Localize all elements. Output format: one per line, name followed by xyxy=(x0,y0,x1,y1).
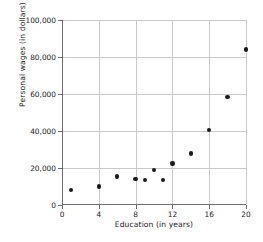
x-tick-label: 8 xyxy=(133,210,138,219)
data-point xyxy=(161,178,165,182)
gridline-vertical xyxy=(209,20,210,205)
y-tick-label: 60,000 xyxy=(30,90,56,99)
x-tick-label: 0 xyxy=(60,210,65,219)
x-tick-label: 16 xyxy=(204,210,213,219)
data-point xyxy=(189,151,193,155)
gridline-horizontal xyxy=(62,20,246,21)
gridline-vertical xyxy=(172,20,173,205)
data-point xyxy=(170,161,174,165)
data-point xyxy=(97,184,101,188)
x-axis-line xyxy=(62,204,246,205)
data-point xyxy=(244,47,248,51)
gridline-horizontal xyxy=(62,57,246,58)
y-tick-label: 40,000 xyxy=(30,127,56,136)
x-axis-title: Education (in years) xyxy=(62,220,246,229)
x-tick-label: 20 xyxy=(241,210,250,219)
x-tick-mark xyxy=(246,205,247,209)
data-point xyxy=(225,95,229,99)
plot-area: 020,00040,00060,00080,000100,000 0481216… xyxy=(62,20,246,205)
x-tick-mark xyxy=(99,205,100,209)
data-point xyxy=(143,178,147,182)
y-tick-label: 100,000 xyxy=(25,16,56,25)
x-tick-mark xyxy=(209,205,210,209)
x-tick-mark xyxy=(136,205,137,209)
data-point xyxy=(133,177,137,181)
y-axis-line xyxy=(62,20,63,205)
gridline-horizontal xyxy=(62,131,246,132)
x-tick-label: 4 xyxy=(96,210,101,219)
y-tick-label: 20,000 xyxy=(30,164,56,173)
y-tick-label: 80,000 xyxy=(30,53,56,62)
x-tick-label: 12 xyxy=(168,210,177,219)
gridline-vertical xyxy=(99,20,100,205)
data-point xyxy=(152,168,156,172)
scatter-plot-figure: Personal wages (in dollars) Education (i… xyxy=(0,0,263,242)
gridline-horizontal xyxy=(62,94,246,95)
x-tick-mark xyxy=(172,205,173,209)
data-point xyxy=(115,174,119,178)
data-point xyxy=(69,188,73,192)
x-tick-mark xyxy=(62,205,63,209)
y-tick-label: 0 xyxy=(51,201,56,210)
